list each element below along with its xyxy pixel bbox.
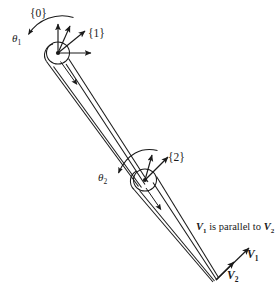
theta-2-subscript: 2 bbox=[103, 177, 107, 186]
parallel-note-v2-subscript: 2 bbox=[271, 227, 275, 235]
frame-1-label: {1} bbox=[88, 28, 105, 40]
parallel-note-text: is parallel to bbox=[207, 221, 264, 232]
frame-2-axes bbox=[145, 155, 168, 180]
kinematics-figure: {0} {1} {2} θ1 θ2 V1 V2 V1 is parallel t… bbox=[0, 0, 280, 296]
v2-subscript: 2 bbox=[235, 275, 239, 284]
parallel-note-v2-symbol: V bbox=[264, 221, 271, 232]
parallel-note-v1: V1 bbox=[196, 221, 207, 232]
parallel-note-v1-symbol: V bbox=[196, 221, 203, 232]
v2-symbol: V bbox=[227, 269, 235, 281]
parallel-note-v2: V2 bbox=[264, 221, 275, 232]
theta-1-label: θ1 bbox=[12, 33, 21, 47]
theta-2-label: θ2 bbox=[98, 172, 107, 186]
link-1-body bbox=[45, 44, 148, 188]
theta-1-subscript: 1 bbox=[17, 38, 21, 47]
figure-canvas bbox=[0, 0, 280, 296]
v1-subscript: 1 bbox=[255, 254, 259, 263]
frame-2-label: {2} bbox=[168, 152, 185, 164]
frame-1-axes bbox=[58, 26, 85, 53]
frame-0-label: {0} bbox=[30, 8, 47, 20]
v2-label: V2 bbox=[227, 270, 238, 284]
link-2-direction-arrow bbox=[146, 188, 160, 208]
v1-label: V1 bbox=[247, 249, 258, 263]
parallel-annotation: V1 is parallel to V2 bbox=[196, 222, 274, 235]
v1-symbol: V bbox=[247, 248, 255, 260]
